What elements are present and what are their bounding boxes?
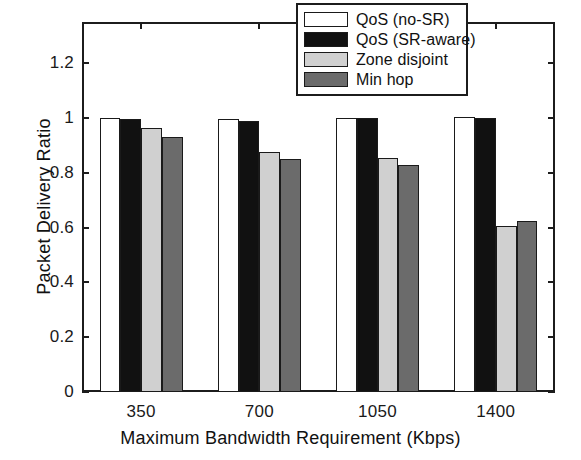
y-tick-mark-right [548,336,555,338]
y-tick-mark [82,281,89,283]
legend-item: Min hop [304,70,460,89]
y-tick-mark [82,336,89,338]
legend-item: QoS (SR-aware) [304,30,460,49]
bar [336,118,357,392]
x-tick-label: 350 [81,402,201,422]
legend-label: Min hop [356,71,414,89]
y-tick-mark-right [548,281,555,283]
legend-swatch [304,32,348,47]
y-tick-mark [82,117,89,119]
x-tick-label: 1050 [318,402,438,422]
bar [141,128,162,392]
legend-swatch [304,12,348,27]
y-tick-mark-right [548,172,555,174]
y-tick-mark [82,227,89,229]
y-tick-mark-right [548,391,555,393]
bar [259,152,280,392]
legend-label: QoS (SR-aware) [356,31,476,49]
y-tick-mark [82,62,89,64]
y-tick-mark-right [548,62,555,64]
bar [517,221,538,392]
y-tick-mark [82,391,89,393]
y-axis-title: Packet Delivery Ratio [34,57,55,357]
y-tick-mark-right [548,117,555,119]
bar [454,117,475,392]
y-tick-mark-right [548,227,555,229]
x-tick-mark-top [495,22,497,29]
legend-item: QoS (no-SR) [304,10,460,29]
bar-chart-figure: 00.20.40.60.811.2 35070010501400 Packet … [0,0,581,460]
x-tick-mark-top [140,22,142,29]
bar [239,121,260,392]
y-tick-label: 0 [4,382,74,402]
legend-label: Zone disjoint [356,51,448,69]
legend-item: Zone disjoint [304,50,460,69]
x-tick-label: 1400 [436,402,556,422]
x-tick-label: 700 [199,402,319,422]
bar [398,165,419,392]
bar [378,158,399,392]
bar [475,118,496,392]
bar [162,137,183,392]
y-tick-mark [82,172,89,174]
legend-label: QoS (no-SR) [356,11,450,29]
x-axis-title: Maximum Bandwidth Requirement (Kbps) [0,428,581,449]
chart-legend: QoS (no-SR)QoS (SR-aware)Zone disjointMi… [296,3,468,96]
legend-swatch [304,72,348,87]
bar [496,226,517,392]
legend-swatch [304,52,348,67]
bar [100,118,121,392]
bar [357,118,378,392]
bar [280,159,301,392]
x-tick-mark-top [258,22,260,29]
bar [120,119,141,392]
bar [218,119,239,392]
